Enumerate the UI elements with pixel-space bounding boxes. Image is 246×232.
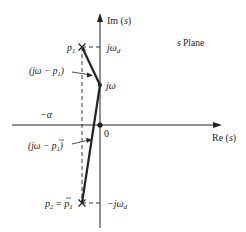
p1-label: p1 — [66, 42, 76, 55]
alpha-label: −α — [40, 109, 53, 120]
origin-point — [97, 122, 102, 127]
leader-lower — [72, 140, 89, 144]
vector-jw-minus-p1-conj — [82, 85, 100, 203]
upper-vector-label: (jω − p1) — [29, 66, 64, 77]
real-axis-arrow-icon — [213, 122, 222, 128]
imaginary-axis-label: Im (s) — [107, 15, 131, 27]
leader-upper-arrow-icon — [87, 73, 93, 78]
s-plane-diagram: Im (s) s Plane Re (s) 0 p1 jωd jω −α (jω… — [0, 0, 246, 232]
vector-jw-minus-p1 — [82, 47, 100, 85]
jw-label: jω — [104, 80, 116, 91]
imaginary-axis-arrow-icon — [97, 13, 103, 22]
neg-jwd-label: −jωd — [107, 198, 128, 211]
real-axis-label: Re (s) — [212, 132, 236, 144]
origin-label: 0 — [104, 128, 109, 139]
p2-label: p2 = p1 — [44, 198, 73, 211]
lower-vector-label: (jω − p1) — [28, 141, 63, 152]
jw-point — [98, 83, 102, 87]
jwd-label: jωd — [105, 42, 121, 55]
plane-label: s Plane — [177, 38, 204, 48]
